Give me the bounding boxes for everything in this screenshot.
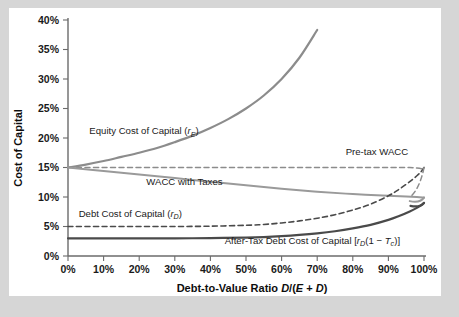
after-tax-debt-right-hook bbox=[410, 203, 424, 207]
series-curve-1 bbox=[68, 167, 424, 169]
y-axis-title: Cost of Capital bbox=[12, 109, 24, 187]
debt-label-text: Debt Cost of Capital ( bbox=[79, 208, 172, 219]
x-axis-title-d: D bbox=[281, 282, 289, 294]
y-tick-label: 25% bbox=[38, 102, 60, 114]
y-tick-label: 0% bbox=[44, 250, 60, 262]
x-tick-label: 100% bbox=[411, 263, 439, 275]
x-axis-title: Debt-to-Value Ratio D/(E + D) bbox=[177, 282, 328, 294]
x-tick-label: 60% bbox=[271, 263, 293, 275]
x-tick-label: 70% bbox=[307, 263, 329, 275]
x-tick-label: 0% bbox=[60, 263, 76, 275]
debt-cost-label: Debt Cost of Capital (rD) bbox=[79, 208, 182, 221]
x-tick-label: 10% bbox=[93, 263, 115, 275]
y-axis-ticks bbox=[63, 20, 68, 256]
x-tick-label: 90% bbox=[378, 263, 400, 275]
aftertax-label-mid: (1 bbox=[365, 235, 376, 246]
x-axis-title-plus: + bbox=[303, 282, 316, 294]
aftertax-label-prefix: After-Tax Debt Cost of Capital [ bbox=[225, 235, 358, 246]
pretax-wacc-right-hook bbox=[412, 168, 424, 196]
pretax-wacc-label: Pre-tax WACC bbox=[346, 146, 409, 157]
debt-label-close: ) bbox=[179, 208, 182, 219]
y-tick-label: 15% bbox=[38, 161, 60, 173]
y-tick-label: 10% bbox=[38, 191, 60, 203]
after-tax-debt-cost-label: After-Tax Debt Cost of Capital [rD(1 − T… bbox=[225, 235, 400, 248]
wacc-with-taxes-label: WACC with Taxes bbox=[146, 176, 222, 187]
cost-of-capital-chart: 0%5%10%15%20%25%30%35%40% 0%10%20%30%40%… bbox=[0, 0, 459, 317]
x-tick-label: 20% bbox=[129, 263, 151, 275]
x-tick-label: 80% bbox=[342, 263, 364, 275]
y-axis-tick-labels: 0%5%10%15%20%25%30%35%40% bbox=[38, 14, 60, 262]
equity-label-text: Equity Cost of Capital ( bbox=[89, 125, 188, 136]
equity-cost-label: Equity Cost of Capital (rE) bbox=[89, 125, 198, 138]
x-axis-title-close: ) bbox=[324, 282, 328, 294]
series-curve-0 bbox=[68, 30, 317, 167]
x-tick-label: 30% bbox=[164, 263, 186, 275]
series-curve-2 bbox=[68, 168, 424, 198]
y-tick-label: 35% bbox=[38, 43, 60, 55]
y-tick-label: 30% bbox=[38, 73, 60, 85]
x-axis-title-d2: D bbox=[316, 282, 324, 294]
x-tick-label: 50% bbox=[235, 263, 257, 275]
x-tick-label: 40% bbox=[200, 263, 222, 275]
x-axis-tick-labels: 0%10%20%30%40%50%60%70%80%90%100% bbox=[60, 263, 438, 275]
figure-root: 0%5%10%15%20%25%30%35%40% 0%10%20%30%40%… bbox=[0, 0, 459, 317]
x-axis-ticks bbox=[68, 256, 424, 261]
equity-label-close: ) bbox=[195, 125, 198, 136]
x-axis-title-bold: Debt-to-Value Ratio bbox=[177, 282, 282, 294]
y-tick-label: 20% bbox=[38, 132, 60, 144]
aftertax-label-tail: )] bbox=[394, 235, 400, 246]
y-tick-label: 5% bbox=[44, 220, 60, 232]
y-tick-label: 40% bbox=[38, 14, 60, 26]
